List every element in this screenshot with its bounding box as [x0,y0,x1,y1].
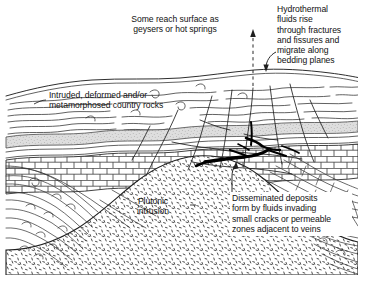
label-plutonic-intrusion: Plutonic intrusion [122,196,184,217]
label-hydrothermal-fluids: Hydrothermal fluids rise through fractur… [277,4,363,66]
label-country-rocks: Intruded, deformed and/or metamorphosed … [49,90,189,111]
label-geysers-hot-springs: Some reach surface as geysers or hot spr… [112,14,238,35]
geology-diagram: Some reach surface as geysers or hot spr… [0,0,366,289]
geyser-arrow [250,29,256,88]
label-disseminated-deposits: Disseminated deposits form by fluids inv… [230,192,352,236]
